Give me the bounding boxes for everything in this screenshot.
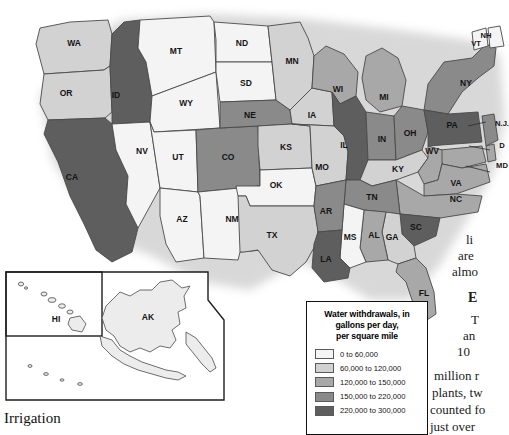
inset-alaska-hawaii xyxy=(6,272,224,400)
legend-entry: 150,000 to 220,000 xyxy=(315,392,419,402)
legend-entry: 120,000 to 150,000 xyxy=(315,377,419,387)
state-label-AR: AR xyxy=(320,206,332,216)
article-fragment-5: an xyxy=(463,328,475,344)
article-fragment-4: T xyxy=(471,312,479,328)
state-label-WY: WY xyxy=(179,98,193,108)
article-heading-fragment: E xyxy=(468,290,477,306)
state-label-VA: VA xyxy=(450,178,461,188)
state-label-VT: VT xyxy=(471,39,481,48)
state-label-MD: MD xyxy=(496,161,508,170)
legend-label: 220,000 to 300,000 xyxy=(340,406,405,415)
article-fragment-3: almo xyxy=(452,264,478,280)
state-label-TN: TN xyxy=(366,192,377,202)
legend-label: 150,000 to 220,000 xyxy=(340,392,405,401)
state-label-KY: KY xyxy=(392,164,404,174)
state-label-ID: ID xyxy=(112,90,121,100)
state-label-IN: IN xyxy=(378,134,387,144)
article-fragment-1: li xyxy=(466,232,473,248)
state-label-MN: MN xyxy=(285,56,298,66)
state-label-IL: IL xyxy=(340,140,348,150)
state-OR[interactable] xyxy=(40,66,112,120)
article-fragment-10: just over xyxy=(430,419,475,435)
state-label-OH: OH xyxy=(404,128,417,138)
article-fragment-7: million r xyxy=(434,368,479,384)
legend-label: 120,000 to 150,000 xyxy=(340,378,405,387)
article-fragment-2: are xyxy=(458,248,474,264)
state-label-MS: MS xyxy=(344,232,357,242)
article-fragment-6: 10 xyxy=(457,344,470,360)
legend-title-line-2: gallons per day, xyxy=(315,320,419,331)
state-label-OK: OK xyxy=(270,180,284,190)
map-legend: Water withdrawals, in gallons per day, p… xyxy=(306,301,428,435)
state-label-WI: WI xyxy=(333,84,343,94)
legend-swatch xyxy=(315,392,334,402)
legend-entry: 0 to 60,000 xyxy=(315,349,419,359)
us-choropleth-map: WAORIDMTWYNDSDMNWIMIIANEILINOHPANYNHVTN.… xyxy=(0,0,509,435)
legend-swatch xyxy=(315,377,334,387)
state-DE[interactable] xyxy=(486,144,496,162)
legend-title: Water withdrawals, in gallons per day, p… xyxy=(315,309,419,342)
legend-label: 0 to 60,000 xyxy=(340,350,378,359)
state-label-SD: SD xyxy=(240,78,252,88)
state-label-DE: D xyxy=(499,141,505,150)
state-label-GA: GA xyxy=(386,232,399,242)
state-label-OR: OR xyxy=(60,88,73,98)
legend-entry: 60,000 to 120,000 xyxy=(315,363,419,373)
state-label-NC: NC xyxy=(450,194,462,204)
state-label-CO: CO xyxy=(222,152,235,162)
state-label-TX: TX xyxy=(267,230,278,240)
legend-title-line-1: Water withdrawals, in xyxy=(315,309,419,320)
state-label-WV: WV xyxy=(425,146,439,156)
state-label-AL: AL xyxy=(368,230,379,240)
state-label-LA: LA xyxy=(320,254,331,264)
state-label-NH: NH xyxy=(481,31,492,40)
state-label-ND: ND xyxy=(236,38,248,48)
state-label-UT: UT xyxy=(172,152,184,162)
legend-entries: 0 to 60,00060,000 to 120,000120,000 to 1… xyxy=(315,349,419,416)
article-fragment-8: plants, tw xyxy=(432,385,483,401)
legend-swatch xyxy=(315,349,334,359)
state-label-WA: WA xyxy=(67,38,81,48)
state-label-FL: FL xyxy=(419,288,429,298)
state-label-MT: MT xyxy=(170,46,183,56)
state-label-MO: MO xyxy=(315,162,329,172)
state-label-KS: KS xyxy=(280,142,292,152)
article-fragment-9: counted fo xyxy=(430,402,485,418)
state-label-NJ: N.J. xyxy=(495,119,509,128)
state-label-NV: NV xyxy=(136,146,148,156)
map-figure: WAORIDMTWYNDSDMNWIMIIANEILINOHPANYNHVTN.… xyxy=(0,0,509,435)
section-heading-irrigation: Irrigation xyxy=(4,410,61,427)
state-label-SC: SC xyxy=(410,222,422,232)
state-label-IA: IA xyxy=(308,110,317,120)
legend-swatch xyxy=(315,406,334,416)
state-label-NE: NE xyxy=(244,110,256,120)
state-label-PA: PA xyxy=(446,120,457,130)
legend-entry: 220,000 to 300,000 xyxy=(315,406,419,416)
state-label-MI: MI xyxy=(379,92,388,102)
state-label-CA: CA xyxy=(66,172,78,182)
legend-label: 60,000 to 120,000 xyxy=(340,364,401,373)
state-label-AK: AK xyxy=(142,312,155,322)
legend-title-line-3: per square mile xyxy=(315,331,419,342)
state-label-HI: HI xyxy=(52,314,61,324)
state-label-NY: NY xyxy=(460,78,472,88)
legend-swatch xyxy=(315,363,334,373)
state-label-NM: NM xyxy=(225,214,238,224)
state-label-AZ: AZ xyxy=(176,214,187,224)
